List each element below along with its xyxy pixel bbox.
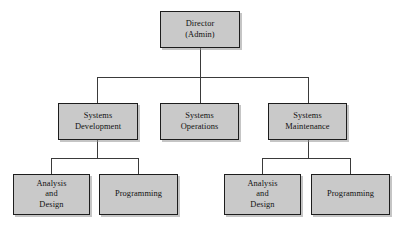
connector-level1-bus: [97, 77, 309, 78]
connector-sys-development-stem: [97, 140, 98, 158]
connector-development-bus: [51, 158, 138, 159]
node-development-programming-label: Programming: [113, 189, 164, 199]
node-systems-development-label: Systems Development: [73, 111, 123, 132]
node-maintenance-programming[interactable]: Programming: [311, 174, 390, 215]
node-development-analysis-and-design-label: Analysis and Design: [34, 179, 68, 210]
node-director-label: Director (Admin): [183, 19, 217, 40]
node-systems-maintenance-label: Systems Maintenance: [283, 111, 331, 132]
node-development-analysis-and-design[interactable]: Analysis and Design: [13, 174, 90, 215]
node-systems-maintenance[interactable]: Systems Maintenance: [268, 103, 347, 140]
connector-drop-sys-development: [97, 77, 98, 103]
connector-maintenance-bus: [262, 158, 350, 159]
node-maintenance-analysis-and-design-label: Analysis and Design: [245, 179, 279, 210]
connector-drop-mnt-programming: [350, 158, 351, 174]
node-maintenance-programming-label: Programming: [325, 189, 376, 199]
node-systems-operations-label: Systems Operations: [179, 111, 221, 132]
connector-drop-dev-analysis: [51, 158, 52, 174]
connector-director-stem: [200, 48, 201, 77]
connector-drop-sys-maintenance: [308, 77, 309, 103]
node-director[interactable]: Director (Admin): [160, 11, 240, 48]
connector-drop-sys-operations: [200, 77, 201, 103]
connector-sys-maintenance-stem: [308, 140, 309, 158]
node-development-programming[interactable]: Programming: [99, 174, 178, 215]
node-systems-operations[interactable]: Systems Operations: [160, 103, 239, 140]
node-maintenance-analysis-and-design[interactable]: Analysis and Design: [224, 174, 301, 215]
org-chart-diagram: Director (Admin) Systems Development Sys…: [0, 0, 403, 228]
connector-drop-dev-programming: [138, 158, 139, 174]
connector-drop-mnt-analysis: [262, 158, 263, 174]
node-systems-development[interactable]: Systems Development: [58, 103, 138, 140]
